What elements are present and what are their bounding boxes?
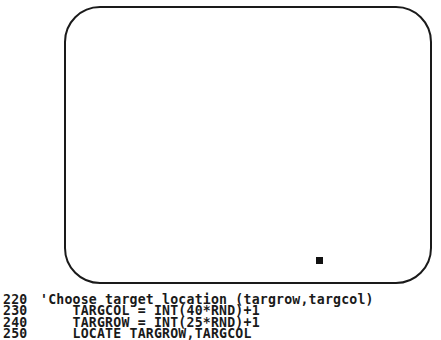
line-number: 250 (3, 328, 27, 339)
code-line: 250 LOCATE TARGROW,TARGCOL (0, 328, 441, 339)
screen-display-frame (64, 6, 432, 284)
basic-code-listing: 220 'Choose target location (targrow,tar… (0, 294, 441, 339)
target-marker (316, 257, 323, 264)
line-code: LOCATE TARGROW,TARGCOL (40, 328, 252, 339)
